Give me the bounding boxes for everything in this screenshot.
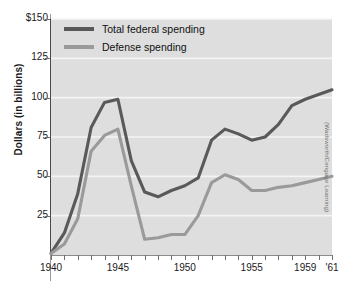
x-tick-mark bbox=[145, 255, 146, 260]
y-tick-label: $150 bbox=[2, 12, 48, 23]
y-tick-mark bbox=[45, 58, 50, 59]
source-credit: (Wadsworth/Cengage Learning) bbox=[324, 122, 331, 242]
x-tick-mark bbox=[51, 255, 52, 260]
x-tick-mark bbox=[78, 255, 79, 260]
x-tick-mark bbox=[212, 255, 213, 260]
y-tick-mark bbox=[45, 216, 50, 217]
x-tick-mark bbox=[278, 255, 279, 260]
x-tick-mark bbox=[171, 255, 172, 260]
x-tick-label: 1950 bbox=[165, 262, 205, 273]
y-tick-label: 25 bbox=[2, 209, 48, 220]
y-tick-mark bbox=[45, 176, 50, 177]
y-tick-label: 125 bbox=[2, 51, 48, 62]
y-tick-mark bbox=[45, 98, 50, 99]
legend-item-total-federal-spending: Total federal spending bbox=[64, 20, 205, 38]
x-tick-label: '61 bbox=[312, 262, 352, 273]
x-tick-mark bbox=[225, 255, 226, 260]
y-tick-mark bbox=[45, 19, 50, 20]
legend-swatch-icon bbox=[64, 27, 94, 31]
spending-line-chart: Dollars (in billions) $150125100755025 1… bbox=[0, 0, 355, 281]
x-tick-mark bbox=[131, 255, 132, 260]
legend-swatch-icon bbox=[64, 45, 94, 49]
x-tick-label: 1940 bbox=[31, 262, 71, 273]
x-tick-mark bbox=[64, 255, 65, 260]
x-tick-mark bbox=[198, 255, 199, 260]
y-tick-label: 50 bbox=[2, 169, 48, 180]
x-tick-mark bbox=[265, 255, 266, 260]
chart-legend: Total federal spendingDefense spending bbox=[64, 20, 205, 56]
x-tick-mark bbox=[185, 255, 186, 260]
x-tick-mark bbox=[238, 255, 239, 260]
x-tick-mark bbox=[118, 255, 119, 260]
legend-label: Defense spending bbox=[102, 41, 187, 53]
x-tick-mark bbox=[305, 255, 306, 260]
x-tick-label: 1945 bbox=[98, 262, 138, 273]
x-tick-mark bbox=[105, 255, 106, 260]
series-line-defense-spending bbox=[51, 129, 332, 253]
series-line-total-federal-spending bbox=[51, 90, 332, 254]
y-tick-label: 100 bbox=[2, 91, 48, 102]
legend-label: Total federal spending bbox=[102, 23, 205, 35]
x-tick-mark bbox=[91, 255, 92, 260]
x-tick-label: 1955 bbox=[232, 262, 272, 273]
legend-item-defense-spending: Defense spending bbox=[64, 38, 205, 56]
x-tick-mark bbox=[292, 255, 293, 260]
x-tick-mark bbox=[252, 255, 253, 260]
x-axis-spine bbox=[51, 255, 332, 256]
x-tick-mark bbox=[319, 255, 320, 260]
y-tick-label: 75 bbox=[2, 130, 48, 141]
x-tick-mark bbox=[158, 255, 159, 260]
x-tick-mark bbox=[332, 255, 333, 260]
y-tick-mark bbox=[45, 137, 50, 138]
